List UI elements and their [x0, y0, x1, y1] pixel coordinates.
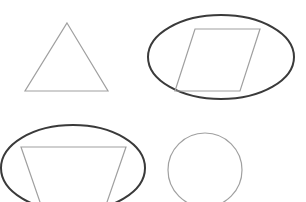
highlight-ellipse-parallelogram [148, 15, 294, 99]
highlight-ellipse-trapezoid [1, 125, 145, 202]
triangle-shape [25, 23, 108, 91]
shapes-diagram [0, 0, 306, 202]
parallelogram-shape [175, 29, 260, 91]
trapezoid-shape [21, 147, 126, 202]
circle-shape [168, 133, 242, 202]
